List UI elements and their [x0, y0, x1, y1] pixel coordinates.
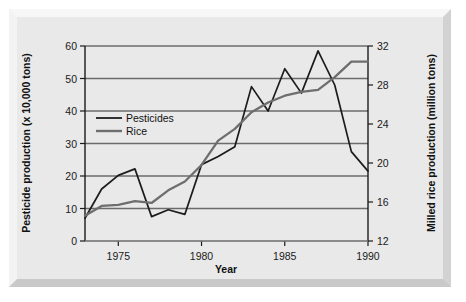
x-axis-ticks-group: 1975198019851990: [107, 241, 380, 262]
x-tick-label-1980: 1980: [190, 250, 214, 262]
right-tick-label-24: 24: [377, 118, 389, 130]
left-tick-label-20: 20: [65, 170, 77, 182]
right-axis-title: Milled rice production (million tons): [425, 54, 437, 232]
right-tick-label-12: 12: [377, 235, 389, 247]
right-tick-label-32: 32: [377, 40, 389, 52]
left-axis-ticks-group: 0102030405060: [65, 40, 85, 247]
x-axis-title: Year: [215, 263, 237, 275]
left-tick-label-0: 0: [71, 235, 77, 247]
x-tick-label-1985: 1985: [273, 250, 297, 262]
right-tick-label-28: 28: [377, 79, 389, 91]
left-axis-title: Pesticide production (x 10,000 tons): [20, 53, 32, 233]
chart-figure: 0102030405060 121620242832 1975198019851…: [0, 0, 466, 302]
right-tick-label-16: 16: [377, 196, 389, 208]
left-tick-label-50: 50: [65, 73, 77, 85]
right-axis-ticks-group: 121620242832: [368, 40, 389, 247]
left-tick-label-30: 30: [65, 138, 77, 150]
left-tick-label-40: 40: [65, 105, 77, 117]
left-tick-label-60: 60: [65, 40, 77, 52]
line-chart-svg: 0102030405060 121620242832 1975198019851…: [0, 0, 466, 302]
right-tick-label-20: 20: [377, 157, 389, 169]
legend-label-rice: Rice: [126, 125, 147, 137]
left-tick-label-10: 10: [65, 203, 77, 215]
x-tick-label-1990: 1990: [356, 250, 380, 262]
plot-container: 0102030405060 121620242832 1975198019851…: [0, 0, 466, 302]
x-tick-label-1975: 1975: [107, 250, 131, 262]
legend-label-pesticides: Pesticides: [126, 112, 174, 124]
